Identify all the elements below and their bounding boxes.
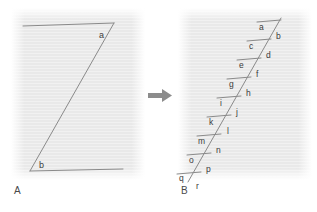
angle-label-q: q [179,173,184,183]
angle-label-a: a [259,22,264,32]
angle-label-o: o [189,155,194,165]
angle-label-j: j [235,107,238,117]
panel-a-canvas: a b [11,8,145,180]
angle-label-n: n [216,145,221,155]
angle-label-h: h [246,88,251,98]
panel-caption-a: A [14,185,21,196]
angle-label-i: i [220,98,222,108]
angle-label-a: a [99,30,104,40]
transform-arrow [148,86,174,106]
angle-label-d: d [266,50,271,60]
angle-label-b: b [276,31,281,41]
panel-b: a b c d e f g h i j k l m n o p q r [178,8,312,180]
angle-label-p: p [206,164,211,174]
panel-a: a b [11,8,145,180]
angle-label-e: e [239,60,244,70]
panel-caption-b: B [181,185,188,196]
angle-label-b: b [39,160,44,170]
angle-label-m: m [198,136,205,146]
angle-label-l: l [227,126,229,136]
panel-b-canvas: a b c d e f g h i j k l m n o p q r [178,8,312,180]
angle-label-g: g [229,79,234,89]
angle-label-r: r [196,181,199,191]
arrow-icon [148,86,174,106]
figure-container: a b [0,0,317,212]
